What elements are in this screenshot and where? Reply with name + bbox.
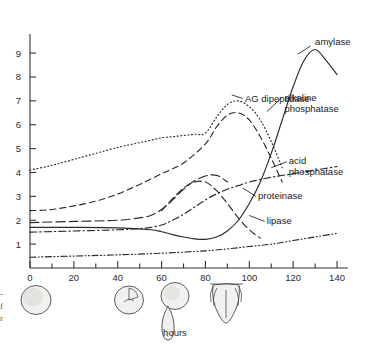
y-axis-ticks: 123456789 xyxy=(16,48,36,250)
y-tick-label: 2 xyxy=(16,215,21,226)
label-acid-phosphatase: acidphosphatase xyxy=(289,155,343,177)
y-tick-label: 7 xyxy=(16,95,21,106)
curve-alkaline-phosphatase xyxy=(30,112,282,210)
x-tick-label: 120 xyxy=(285,272,301,283)
margin-caption: - f r xyxy=(0,288,14,324)
x-tick-label: 60 xyxy=(156,272,167,283)
x-tick-label: 100 xyxy=(241,272,257,283)
x-tick-label: 0 xyxy=(27,272,32,283)
y-tick-label: 4 xyxy=(16,167,21,178)
y-tick-label: 5 xyxy=(16,143,21,154)
x-axis-ticks: 020406080100120140 xyxy=(27,261,345,283)
x-tick-label: 80 xyxy=(200,272,211,283)
chart-canvas: 123456789 020406080100120140 amylasealka… xyxy=(0,0,382,350)
x-axis-title: hours xyxy=(163,327,187,338)
developmental-stage-illustrations xyxy=(21,283,243,341)
curve-amylase xyxy=(30,50,337,240)
y-tick-label: 3 xyxy=(16,191,21,202)
data-curves xyxy=(30,50,337,258)
label-ag-dipeptidase: AG dipeptidase xyxy=(245,93,310,104)
curve-ag-dipeptidase xyxy=(30,101,282,170)
label-text: amylase xyxy=(315,36,350,47)
label-text: lipase xyxy=(267,215,292,226)
curve-labels: amylasealkalinephosphataseAG dipeptidase… xyxy=(245,36,351,226)
x-tick-label: 40 xyxy=(112,272,123,283)
label-proteinase: proteinase xyxy=(258,190,302,201)
curve-proteinase xyxy=(30,175,227,223)
y-tick-label: 9 xyxy=(16,48,21,59)
y-tick-label: 1 xyxy=(16,239,21,250)
egg-stage-icon xyxy=(21,286,51,315)
leader-proteinase xyxy=(243,188,256,196)
margin-caption-line-1: - xyxy=(0,288,14,300)
x-tick-label: 20 xyxy=(69,272,80,283)
gastrula-stage-icon xyxy=(115,286,144,314)
label-text: phosphatase xyxy=(289,166,343,177)
y-tick-label: 6 xyxy=(16,119,21,130)
margin-caption-line-2: f xyxy=(0,300,14,312)
label-text: phosphatase xyxy=(284,103,338,114)
hatched-larva-stage-icon xyxy=(210,284,243,324)
label-text: acid xyxy=(289,155,306,166)
leader-ag-dipeptidase xyxy=(232,95,243,99)
label-amylase: amylase xyxy=(315,36,350,47)
enzyme-activity-figure: - f r 123456789 020406080100120140 amyla… xyxy=(0,0,382,350)
margin-caption-line-3: r xyxy=(0,312,14,324)
y-tick-label: 8 xyxy=(16,71,21,82)
label-text: AG dipeptidase xyxy=(245,93,310,104)
label-lipase: lipase xyxy=(267,215,292,226)
leader-lipase xyxy=(249,215,264,221)
x-tick-label: 140 xyxy=(329,272,345,283)
label-text: proteinase xyxy=(258,190,302,201)
